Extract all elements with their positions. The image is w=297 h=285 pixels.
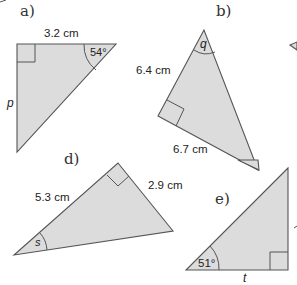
- unknown-p: p: [7, 96, 14, 110]
- triangle-a: [17, 44, 116, 152]
- part-label-d: d): [64, 150, 79, 168]
- angle-label-a: 54°: [90, 46, 107, 58]
- cropped-fragment-mid: [238, 160, 259, 170]
- part-label-e: e): [215, 190, 230, 208]
- unknown-t: t: [243, 271, 246, 285]
- triangle-e: [186, 168, 288, 270]
- unknown-q: q: [200, 37, 207, 51]
- unknown-s: s: [35, 236, 41, 248]
- side-length-d-right: 2.9 cm: [148, 179, 183, 191]
- angle-label-e: 51°: [198, 257, 215, 269]
- side-length-d-left: 5.3 cm: [35, 191, 70, 203]
- triangle-c-fragment: [290, 42, 297, 50]
- triangles-drawing: [0, 0, 297, 285]
- part-label-b: b): [216, 2, 231, 20]
- triangle-exercise-figure: a) 3.2 cm 54° p b) 6.4 cm 6.7 cm q d) 5.…: [0, 0, 297, 285]
- side-length-a-top: 3.2 cm: [44, 27, 79, 39]
- part-label-a: a): [20, 2, 35, 20]
- cropped-fragment: [0, 0, 6, 2]
- cropped-fragment-right: [294, 226, 297, 228]
- side-length-b-bottom: 6.7 cm: [173, 143, 208, 155]
- side-length-b-left: 6.4 cm: [136, 64, 171, 76]
